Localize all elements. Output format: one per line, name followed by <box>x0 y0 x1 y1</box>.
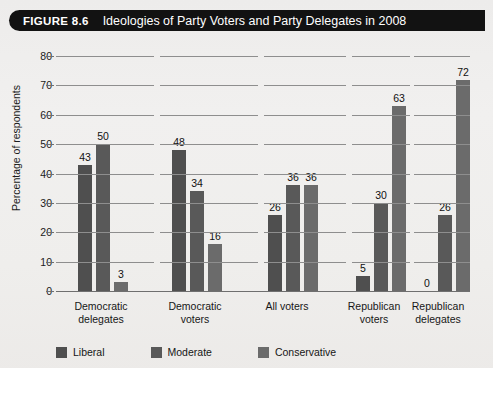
gridline <box>56 56 154 57</box>
legend-item: Liberal <box>56 346 105 358</box>
y-axis-title: Percentage of respondents <box>10 53 22 243</box>
bar-value-label: 50 <box>89 130 117 142</box>
bar-value-label: 0 <box>413 277 441 289</box>
figure-container: FIGURE 8.6 Ideologies of Party Voters an… <box>0 0 493 402</box>
y-tick-mark <box>46 291 54 292</box>
bar <box>286 185 300 291</box>
chart-legend: LiberalModerateConservative <box>56 344 382 360</box>
gridline <box>160 232 258 233</box>
gridline <box>264 115 346 116</box>
gridline <box>352 262 410 263</box>
y-tick-mark <box>46 174 54 175</box>
legend-item: Moderate <box>151 346 212 358</box>
x-axis-group-label-line1: Democratic <box>145 300 245 313</box>
gridline <box>414 232 470 233</box>
legend-item: Conservative <box>258 346 336 358</box>
bar <box>392 106 406 291</box>
figure-number-label: FIGURE 8.6 <box>23 15 89 27</box>
bar-value-label: 34 <box>183 177 211 189</box>
bar <box>456 80 470 292</box>
x-axis-group-label-line2: voters <box>145 313 245 326</box>
gridline <box>160 144 258 145</box>
figure-title-banner: FIGURE 8.6 Ideologies of Party Voters an… <box>9 10 461 31</box>
gridline <box>264 144 346 145</box>
bar <box>268 215 282 291</box>
gridline <box>264 85 346 86</box>
gridline <box>414 262 470 263</box>
x-axis-group-label: Democraticvoters <box>145 300 245 325</box>
gridline <box>56 144 154 145</box>
gridline <box>352 144 410 145</box>
gridline <box>56 115 154 116</box>
gridline <box>160 85 258 86</box>
x-axis-line <box>56 291 470 292</box>
gridline <box>414 115 470 116</box>
gridline <box>352 232 410 233</box>
bar-value-label: 48 <box>165 136 193 148</box>
gridline <box>264 232 346 233</box>
legend-swatch-moderate <box>151 347 162 358</box>
bar-value-label: 72 <box>449 66 477 78</box>
gridline <box>264 56 346 57</box>
legend-swatch-conservative <box>258 347 269 358</box>
x-axis-group-label-line1: Republican <box>388 300 488 313</box>
legend-label: Conservative <box>275 346 336 358</box>
y-tick-mark <box>46 232 54 233</box>
bar-value-label: 63 <box>385 92 413 104</box>
x-axis-group-label-line2: delegates <box>51 313 151 326</box>
bar-chart: 01020304050607080 Percentage of responde… <box>0 34 493 334</box>
bar <box>114 282 128 291</box>
bar <box>304 185 318 291</box>
gridline <box>56 203 154 204</box>
bar-value-label: 30 <box>367 189 395 201</box>
gridline <box>352 203 410 204</box>
gridline <box>56 85 154 86</box>
legend-label: Moderate <box>168 346 212 358</box>
legend-swatch-liberal <box>56 347 67 358</box>
y-tick-mark <box>46 203 54 204</box>
gridline <box>264 262 346 263</box>
bar-value-label: 3 <box>107 268 135 280</box>
x-axis-group-label-line1: All voters <box>237 300 337 313</box>
x-axis-group-label-line2: delegates <box>388 313 488 326</box>
bar <box>172 150 186 291</box>
gridline <box>414 56 470 57</box>
figure-title-text: Ideologies of Party Voters and Party Del… <box>103 14 407 28</box>
figure-bottom-margin <box>0 368 493 402</box>
gridline <box>352 56 410 57</box>
gridline <box>352 85 410 86</box>
gridline <box>56 262 154 263</box>
gridline <box>264 174 346 175</box>
y-tick-mark <box>46 144 54 145</box>
gridline <box>414 144 470 145</box>
bar <box>208 244 222 291</box>
x-axis-group-label: Democraticdelegates <box>51 300 151 325</box>
y-tick-mark <box>46 262 54 263</box>
bar-value-label: 5 <box>349 262 377 274</box>
x-axis-group-label-line1: Democratic <box>51 300 151 313</box>
gridline <box>56 232 154 233</box>
x-axis-group-label: All voters <box>237 300 337 313</box>
bar-value-label: 43 <box>71 151 99 163</box>
gridline <box>352 115 410 116</box>
gridline <box>160 115 258 116</box>
y-tick-mark <box>46 85 54 86</box>
legend-label: Liberal <box>73 346 105 358</box>
gridline <box>160 262 258 263</box>
bar <box>374 203 388 291</box>
gridline <box>414 85 470 86</box>
bar <box>356 276 370 291</box>
y-tick-mark <box>46 115 54 116</box>
gridline <box>352 174 410 175</box>
gridline <box>414 174 470 175</box>
bar <box>78 165 92 291</box>
gridline <box>264 203 346 204</box>
gridline <box>56 174 154 175</box>
gridline <box>414 203 470 204</box>
x-axis-group-label: Republicandelegates <box>388 300 488 325</box>
bar <box>438 215 452 291</box>
gridline <box>160 203 258 204</box>
y-tick-mark <box>46 56 54 57</box>
gridline <box>160 174 258 175</box>
gridline <box>160 56 258 57</box>
